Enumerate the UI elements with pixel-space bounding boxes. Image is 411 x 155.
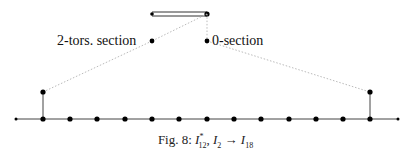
zero-section-label: 0-section xyxy=(212,33,263,49)
figure-caption: Fig. 8: I*12, I2 → I18 xyxy=(0,132,411,150)
fiber1-sup: * xyxy=(199,132,203,141)
zero-section-node xyxy=(205,39,210,44)
chain xyxy=(15,89,400,121)
result-sub: 18 xyxy=(245,141,253,150)
torsion-section-node xyxy=(150,39,155,44)
torsion-section-label: 2-tors. section xyxy=(57,33,136,49)
caption-prefix: Fig. 8: xyxy=(158,132,195,147)
dotted-connectors xyxy=(43,14,370,92)
top-double-bar xyxy=(150,11,209,16)
caption-arrow: → xyxy=(221,132,241,147)
